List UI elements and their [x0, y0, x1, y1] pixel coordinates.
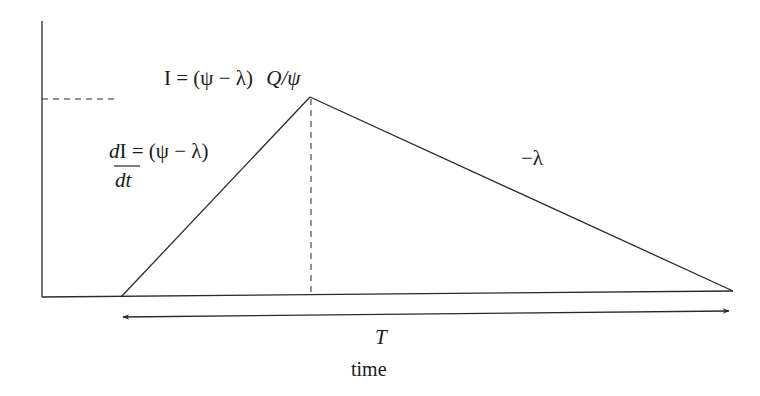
x-axis-label: time — [351, 359, 387, 379]
build-up-rate-expression: I = (ψ − λ) — [120, 139, 209, 163]
inventory-depletion-line — [310, 97, 733, 291]
peak-formula-prefix: I = (ψ − λ) — [164, 66, 253, 90]
period-arrow — [123, 311, 729, 317]
peak-formula: I = (ψ − λ) Q/ψ — [164, 68, 300, 89]
derivative-d: d — [109, 139, 120, 163]
peak-formula-suffix: Q/ψ — [266, 66, 300, 90]
build-up-rate-label: dI = (ψ − λ) — [109, 141, 209, 162]
period-label: T — [375, 327, 387, 348]
depletion-rate-label: −λ — [521, 148, 543, 169]
x-axis — [42, 291, 733, 297]
inventory-build-up-line — [121, 97, 310, 297]
build-up-rate-denominator: dt — [115, 170, 131, 191]
